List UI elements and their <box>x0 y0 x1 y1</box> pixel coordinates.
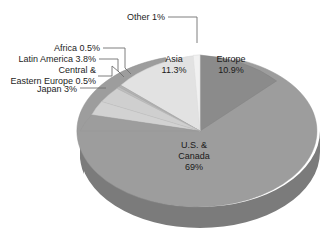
leader-line-other <box>168 17 197 43</box>
label-us-canada-line2: Canada <box>178 151 210 161</box>
label-asia-value: 11.3% <box>162 65 187 75</box>
pie-slices <box>77 55 317 207</box>
callout-central: Central & <box>58 65 96 75</box>
callout-other: Other 1% <box>127 12 165 22</box>
label-asia-name: Asia <box>165 54 183 64</box>
leader-line-central-eastern-europe <box>98 66 119 76</box>
pie-chart-svg: Other 1% Africa 0.5% Latin America 3.8% … <box>0 0 326 239</box>
label-europe-value: 10.9% <box>218 65 244 75</box>
label-europe-name: Europe <box>216 54 245 64</box>
callout-latin-america: Latin America 3.8% <box>18 54 96 64</box>
callout-africa: Africa 0.5% <box>54 43 100 53</box>
pie-chart: Other 1% Africa 0.5% Latin America 3.8% … <box>0 0 326 239</box>
callout-japan: Japan 3% <box>37 84 77 94</box>
label-us-canada-value: 69% <box>185 162 203 172</box>
label-us-canada-line1: U.S. & <box>181 140 207 150</box>
